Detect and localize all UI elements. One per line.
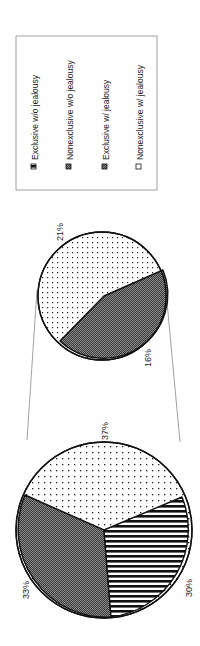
main-pie [16, 442, 192, 618]
legend-swatch-dots-icon [136, 164, 141, 169]
legend-label: Nonexclusive w/ jealousy [135, 64, 145, 160]
label-sec-21: 21% [55, 223, 65, 241]
legend-swatch-checker-icon [66, 164, 71, 169]
legend-swatch-stripes-icon [31, 164, 36, 169]
legend-item-nonexclusive-w-jealousy: Nonexclusive w/ jealousy [135, 64, 145, 169]
label-main-37: 37% [100, 422, 110, 440]
label-sec-16: 16% [143, 349, 153, 367]
pie-of-pie-chart: Exclusive w/o jealousy Nonexclusive w/o … [0, 0, 200, 646]
legend-label: Exclusive w/o jealousy [30, 74, 40, 160]
connector-line-right [167, 302, 180, 442]
connector-line-left [27, 290, 37, 440]
legend-label: Exclusive w/ jealousy [101, 79, 111, 160]
secondary-pie [38, 232, 168, 360]
label-main-33: 33% [21, 581, 31, 599]
legend-item-exclusive-wo-jealousy: Exclusive w/o jealousy [30, 74, 40, 169]
legend-label: Nonexclusive w/o jealousy [65, 60, 75, 160]
legend-item-nonexclusive-wo-jealousy: Nonexclusive w/o jealousy [65, 60, 75, 169]
legend-item-exclusive-w-jealousy: Exclusive w/ jealousy [101, 79, 111, 169]
label-main-30: 30% [184, 579, 194, 597]
legend: Exclusive w/o jealousy Nonexclusive w/o … [16, 36, 157, 190]
legend-swatch-checker-icon [102, 164, 107, 169]
